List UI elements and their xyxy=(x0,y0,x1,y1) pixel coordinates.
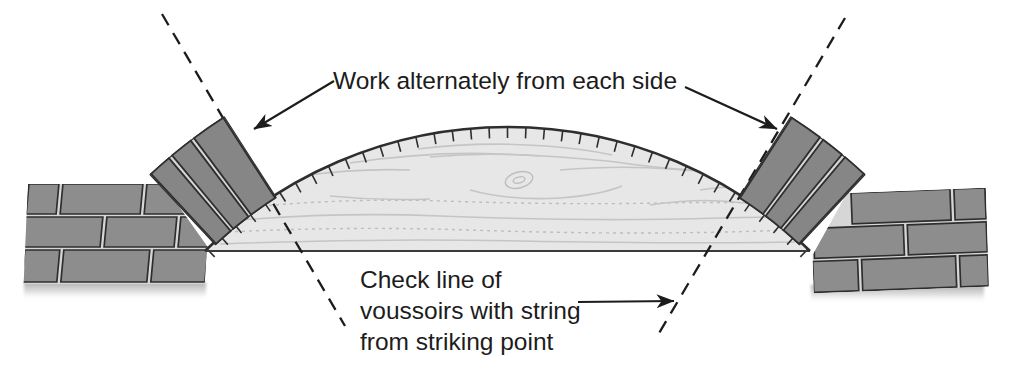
brick xyxy=(954,188,986,220)
tick-mark xyxy=(543,128,544,139)
brick xyxy=(813,225,904,258)
label-check-line-3: from striking point xyxy=(360,328,554,355)
brick xyxy=(151,250,208,282)
arrow-to-string-line xyxy=(578,301,674,302)
left-wall-shadow xyxy=(24,282,206,300)
brick xyxy=(862,256,957,291)
brick xyxy=(907,222,987,255)
label-check-line-2: voussoirs with string xyxy=(360,297,581,324)
diagram-canvas: Work alternately from each side Check li… xyxy=(0,0,1012,378)
tick-mark xyxy=(471,128,472,139)
brick xyxy=(22,250,60,282)
label-work-alternately: Work alternately from each side xyxy=(333,67,677,94)
brick xyxy=(813,260,859,293)
brick xyxy=(104,217,177,247)
brick xyxy=(851,189,951,224)
brick xyxy=(26,184,59,214)
label-check-line-1: Check line of xyxy=(360,266,502,293)
brick xyxy=(61,250,150,282)
brick xyxy=(21,217,103,247)
brick xyxy=(959,255,988,287)
brick xyxy=(60,184,143,214)
arch-construction-diagram: Work alternately from each side Check li… xyxy=(0,0,1012,378)
